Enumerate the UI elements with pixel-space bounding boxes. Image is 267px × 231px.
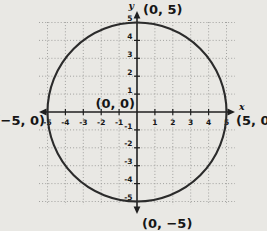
point-label-left: (−5, 0) (0, 113, 45, 128)
y-tick-label: -3 (124, 157, 132, 166)
point-label-origin: (0, 0) (96, 96, 135, 111)
x-tick-label: 3 (188, 118, 193, 127)
x-tick-label: -2 (97, 118, 105, 127)
y-tick-label: 2 (127, 68, 132, 77)
point-label-top: (0, 5) (143, 2, 182, 17)
x-tick-label: 4 (206, 118, 211, 127)
x-tick-label: -4 (61, 118, 69, 127)
y-tick-label: 4 (127, 32, 132, 41)
y-tick-label: -4 (124, 175, 132, 184)
x-tick-label: -3 (79, 118, 87, 127)
point-label-right: (5, 0) (236, 113, 267, 128)
y-axis-letter: y (127, 0, 135, 11)
x-tick-label: 2 (170, 118, 175, 127)
y-tick-label: 3 (127, 50, 132, 59)
y-axis-arrow-up-icon (134, 11, 141, 19)
graph-figure: -5-4-3-2-11234554321-1-2-3-4-5 y x (0, 5… (0, 0, 267, 231)
x-tick-label: -1 (115, 118, 123, 127)
y-axis-arrow-down-icon (134, 207, 141, 215)
coordinate-plane: -5-4-3-2-11234554321-1-2-3-4-5 y x (0, 5… (0, 0, 267, 231)
x-axis-arrow-right-icon (228, 109, 236, 116)
x-tick-label: 1 (152, 118, 157, 127)
y-tick-label: -2 (124, 139, 132, 148)
y-tick-label: -1 (124, 122, 132, 131)
y-tick-label: 1 (127, 86, 132, 95)
x-axis-letter: x (238, 101, 245, 112)
point-label-bottom: (0, −5) (142, 216, 192, 231)
